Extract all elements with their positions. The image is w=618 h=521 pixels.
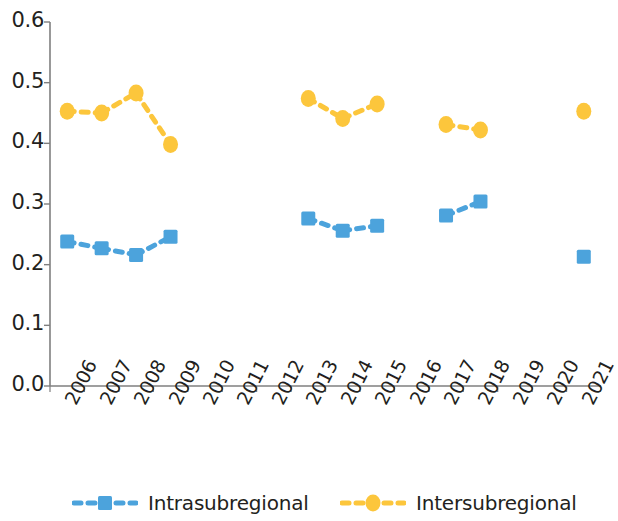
legend-item-intrasubregional[interactable]: Intrasubregional bbox=[72, 484, 309, 521]
y-axis-tick-label: 0.5 bbox=[0, 69, 44, 93]
legend-marker-circle bbox=[340, 491, 406, 515]
chart-legend: Intrasubregional Intersubregional bbox=[0, 484, 601, 521]
data-point-marker bbox=[94, 105, 109, 122]
legend-swatch-intersubregional bbox=[340, 491, 406, 515]
data-point-marker bbox=[370, 95, 385, 112]
data-point-marker bbox=[370, 219, 384, 233]
data-point-marker bbox=[129, 248, 143, 262]
data-point-marker bbox=[439, 116, 454, 133]
legend-label-intrasubregional: Intrasubregional bbox=[148, 491, 309, 515]
data-point-marker bbox=[95, 241, 109, 255]
data-point-marker bbox=[335, 110, 350, 127]
data-point-marker bbox=[439, 209, 453, 223]
chart-axes bbox=[44, 22, 601, 392]
data-point-marker bbox=[164, 230, 178, 244]
series-intrasubregional bbox=[60, 195, 591, 264]
data-point-marker bbox=[301, 212, 315, 226]
data-point-marker bbox=[473, 195, 487, 209]
data-point-marker bbox=[163, 136, 178, 153]
data-point-marker bbox=[336, 224, 350, 238]
series-intersubregional bbox=[60, 84, 592, 153]
chart-series-layer bbox=[60, 84, 592, 263]
legend-label-intersubregional: Intersubregional bbox=[416, 491, 577, 515]
data-point-marker bbox=[60, 103, 75, 120]
data-point-marker bbox=[129, 84, 144, 101]
legend-item-intersubregional[interactable]: Intersubregional bbox=[340, 484, 577, 521]
y-axis-tick-label: 0.0 bbox=[0, 372, 44, 396]
legend-marker-square bbox=[72, 491, 138, 515]
data-point-marker bbox=[60, 235, 74, 249]
data-point-marker bbox=[576, 103, 591, 120]
legend-swatch-intrasubregional bbox=[72, 491, 138, 515]
data-point-marker bbox=[473, 121, 488, 138]
data-point-marker bbox=[301, 90, 316, 107]
y-axis-tick-label: 0.3 bbox=[0, 190, 44, 214]
y-axis-tick-label: 0.2 bbox=[0, 251, 44, 275]
y-axis-tick-label: 0.1 bbox=[0, 311, 44, 335]
y-axis-tick-label: 0.6 bbox=[0, 8, 44, 32]
data-point-marker bbox=[577, 250, 591, 264]
series-line-segment bbox=[136, 93, 170, 145]
y-axis-tick-label: 0.4 bbox=[0, 129, 44, 153]
